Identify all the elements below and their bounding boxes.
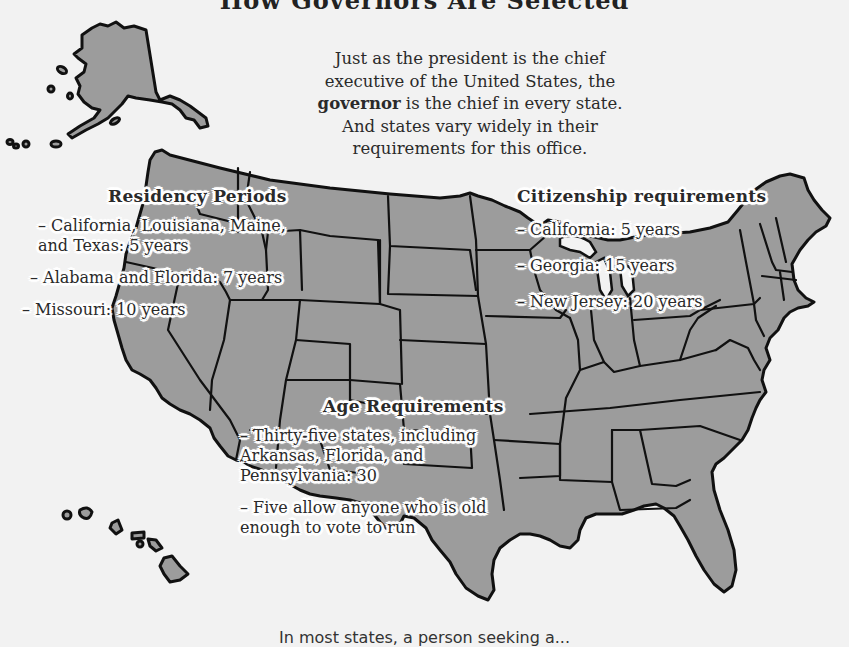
intro-line-1: Just as the president is the chief	[290, 48, 650, 71]
residency-section: Residency Periods – California, Louisian…	[30, 186, 390, 320]
alaska-shape	[7, 22, 208, 148]
residency-heading: Residency Periods	[108, 186, 390, 206]
residency-item: – California, Louisiana, Maine, and Texa…	[38, 216, 390, 256]
citizenship-section: Citizenship requirements – California: 5…	[517, 186, 847, 312]
residency-item: – Missouri: 10 years	[22, 300, 390, 320]
intro-line-4: And states vary widely in their	[290, 116, 650, 139]
citizenship-item: – Georgia: 15 years	[517, 256, 847, 276]
citizenship-item: – New Jersey: 20 years	[517, 292, 847, 312]
intro-line-3: governor is the chief in every state.	[290, 93, 650, 116]
hawaii-shape	[63, 508, 188, 582]
age-item: – Five allow anyone who is old enough to…	[240, 498, 620, 538]
footer-text-fragment: In most states, a person seeking a...	[0, 628, 849, 647]
age-item: – Thirty-five states, including Arkansas…	[240, 426, 620, 486]
residency-item: – Alabama and Florida: 7 years	[30, 268, 390, 288]
intro-line-5: requirements for this office.	[290, 138, 650, 161]
citizenship-heading: Citizenship requirements	[517, 186, 847, 206]
governor-term: governor	[318, 94, 401, 113]
age-heading: Age Requirements	[323, 396, 620, 416]
citizenship-item: – California: 5 years	[517, 220, 847, 240]
intro-line-3-rest: is the chief in every state.	[401, 94, 623, 113]
intro-paragraph: Just as the president is the chief execu…	[290, 48, 650, 161]
intro-line-2: executive of the United States, the	[290, 71, 650, 94]
age-section: Age Requirements – Thirty-five states, i…	[240, 396, 620, 538]
